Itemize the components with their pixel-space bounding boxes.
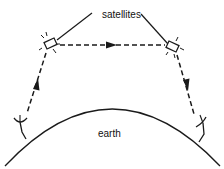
satellite-relay-diagram: satellites earth [0,0,224,169]
left-satellite-icon [39,32,60,53]
satellites-pointer-left [57,13,92,40]
satellites-label: satellites [102,9,141,20]
right-satellite-icon [166,37,184,58]
arrow-right-icon [106,42,117,49]
right-dish-antenna-icon [196,115,206,142]
left-dish-antenna-icon [14,115,27,139]
earth-label: earth [98,128,121,139]
arrow-up-icon [33,78,40,91]
satellites-pointer-right [141,14,168,44]
